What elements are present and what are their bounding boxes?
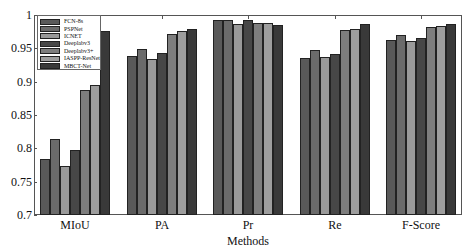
bar: [360, 24, 370, 215]
y-tick-label: 0.8: [17, 142, 32, 154]
bar: [157, 53, 167, 215]
x-tick: [335, 15, 336, 19]
x-tick: [162, 15, 163, 19]
x-tick-label: Pr: [203, 219, 293, 232]
bar: [50, 139, 60, 215]
bar: [396, 35, 406, 215]
x-tick: [421, 15, 422, 19]
bar: [243, 20, 253, 215]
bar: [167, 34, 177, 215]
x-tick-label: F-Score: [376, 219, 466, 232]
bar: [137, 49, 147, 215]
x-axis-title: Methods: [34, 234, 462, 248]
legend-label: FCN-8s: [64, 18, 83, 25]
x-tick: [248, 15, 249, 19]
bar: [80, 90, 90, 215]
legend-item: FCN-8s: [40, 18, 98, 25]
legend-label: Deeplabv3: [64, 40, 90, 47]
legend-swatch: [40, 41, 60, 47]
legend-label: ICNET: [64, 33, 82, 40]
y-tick: [34, 148, 37, 149]
bar: [320, 57, 330, 215]
legend: FCN-8sPSPNetICNETDeeplabv3Deeplabv3+IASP…: [37, 15, 101, 70]
y-tick-label: 0.75: [11, 176, 32, 188]
legend-item: Deeplabv3: [40, 40, 98, 47]
legend-swatch: [40, 63, 60, 69]
x-tick-label: Re: [290, 219, 380, 232]
x-tick-label: MIoU: [30, 219, 120, 232]
bar: [40, 159, 50, 215]
bar: [223, 20, 233, 215]
y-tick: [34, 82, 37, 83]
bar: [187, 29, 197, 215]
legend-item: IASPP-ResNet: [40, 55, 98, 62]
legend-swatch: [40, 33, 60, 39]
legend-label: Deeplabv3+: [64, 48, 93, 55]
legend-label: PSPNet: [64, 26, 83, 33]
bar: [426, 27, 436, 215]
bar: [253, 23, 263, 215]
bar: [330, 54, 340, 215]
y-tick: [34, 215, 37, 216]
y-tick-label: 0.95: [11, 42, 32, 54]
legend-item: PSPNet: [40, 25, 98, 32]
bar: [386, 40, 396, 215]
bar: [310, 50, 320, 215]
bar: [233, 24, 243, 215]
bar: [406, 41, 416, 215]
y-tick: [34, 115, 37, 116]
bar: [70, 150, 80, 215]
bar: [177, 31, 187, 215]
legend-item: MBCT-Net: [40, 62, 98, 69]
bar: [60, 166, 70, 215]
legend-swatch: [40, 19, 60, 25]
legend-label: MBCT-Net: [64, 63, 91, 70]
bar: [127, 56, 137, 215]
legend-item: ICNET: [40, 33, 98, 40]
bar: [350, 29, 360, 215]
bar: [90, 85, 100, 215]
y-tick-label: 0.9: [17, 76, 32, 88]
y-tick: [34, 182, 37, 183]
legend-swatch: [40, 56, 60, 62]
y-tick-label: 1: [26, 9, 32, 21]
bar: [300, 58, 310, 215]
bar: [436, 26, 446, 215]
bar: [100, 31, 110, 215]
x-tick-label: PA: [117, 219, 207, 232]
bar: [416, 38, 426, 215]
legend-swatch: [40, 48, 60, 54]
legend-label: IASPP-ResNet: [64, 55, 100, 62]
legend-item: Deeplabv3+: [40, 48, 98, 55]
grouped-bar-chart: 0.70.750.80.850.90.951 MIoUPAPrReF-Score…: [0, 0, 473, 252]
bar: [340, 30, 350, 215]
bar: [446, 24, 456, 215]
bar: [273, 25, 283, 215]
bar: [213, 20, 223, 215]
bar: [263, 23, 273, 215]
y-tick-label: 0.85: [11, 109, 32, 121]
bar: [147, 59, 157, 215]
legend-swatch: [40, 26, 60, 32]
